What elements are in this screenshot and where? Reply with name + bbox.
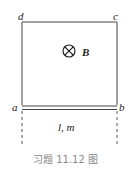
field-into-page-icon	[63, 45, 75, 57]
label-d: d	[18, 11, 24, 22]
field-label: B	[82, 46, 89, 58]
label-b: b	[119, 102, 125, 113]
circuit-diagram	[0, 0, 131, 170]
conducting-frame	[22, 22, 117, 105]
figure-caption: 习题 11.12 图	[0, 151, 131, 166]
bar-label: l, m	[58, 122, 75, 133]
label-a: a	[12, 102, 18, 113]
label-c: c	[113, 11, 118, 22]
